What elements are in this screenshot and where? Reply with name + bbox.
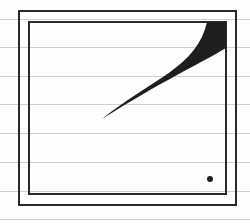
drawing-canvas [0, 0, 250, 223]
drawing-svg [0, 0, 250, 223]
dot-mark [207, 176, 213, 182]
